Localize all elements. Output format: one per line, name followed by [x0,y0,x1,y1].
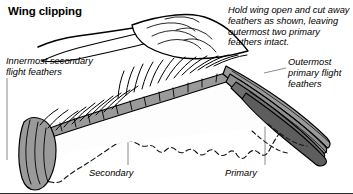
label-primary: Primary [225,168,257,179]
instruction-caption: Hold wing open and cut away feathers as … [228,5,350,48]
innermost-secondary-feathers [19,118,56,191]
label-secondary: Secondary [89,168,133,179]
label-outermost-primary-flight-feathers: Outermost primary flight feathers [288,57,352,89]
page-title: Wing clipping [8,5,82,18]
leader-line-outermost-primary [264,68,286,73]
wing-underside-membrane [22,68,300,170]
label-innermost-secondary-flight-feathers: Innermost secondary flight feathers [6,56,126,78]
